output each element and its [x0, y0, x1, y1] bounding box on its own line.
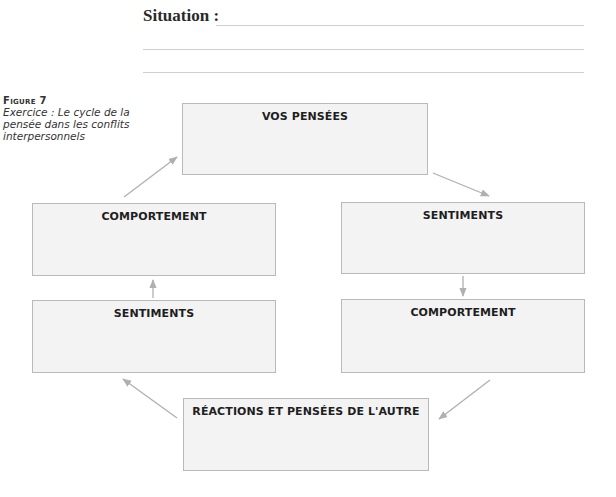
arrow-top-to-right-icon: [433, 173, 489, 196]
arrow-left-to-top-icon: [124, 157, 177, 197]
arrow-bottom-to-left-icon: [123, 379, 177, 418]
arrow-right-to-bottom-icon: [439, 380, 490, 419]
cycle-arrows: [0, 0, 616, 497]
